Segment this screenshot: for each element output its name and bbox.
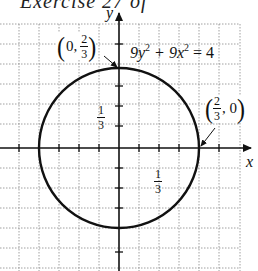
y-tick-label: 13 (97, 104, 105, 131)
circle-graph (0, 0, 258, 271)
pointer-top (104, 56, 117, 67)
equation-label: 9y2 + 9x2 = 4 (130, 43, 214, 61)
pointer-right (201, 128, 215, 146)
point-label-top: ( 0, 23 ) (57, 33, 96, 60)
point-label-right: ( 23 , 0 ) (205, 95, 245, 122)
x-axis-label: x (246, 154, 253, 170)
y-axis-label: y (106, 5, 113, 21)
x-tick-label: 13 (154, 168, 162, 195)
